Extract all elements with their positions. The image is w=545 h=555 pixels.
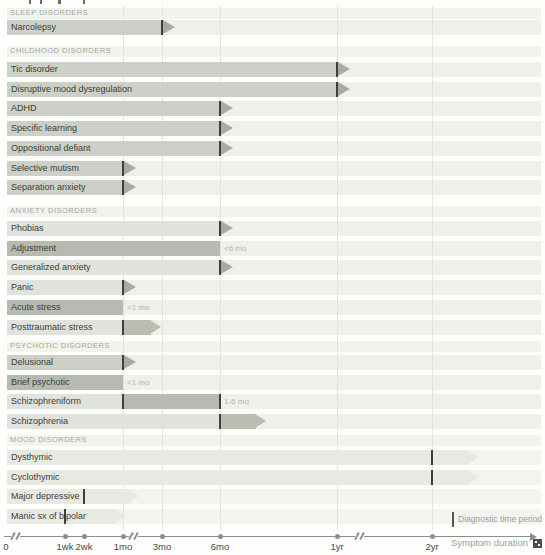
watermark-icon [533, 539, 542, 548]
axis-tick-label-1wk: 1wk [57, 541, 74, 552]
axis-tick-dot [218, 534, 223, 539]
axis-tick-label-2yr: 2yr [425, 541, 438, 552]
axis-tick-label-6mo: 6mo [211, 541, 229, 552]
diagnostic-period-marker-icon [452, 512, 454, 527]
symptom-duration-chart: SLEEP DISORDERSNarcolepsyCHILDHOOD DISOR… [0, 0, 545, 555]
axis-tick-label-2wk: 2wk [76, 541, 93, 552]
legend-diagnostic-time-period: Diagnostic time period [452, 511, 542, 527]
axis-title: Symptom duration [451, 537, 528, 548]
time-axis: 1wk2wk1mo3mo6mo1yr2yr0 [0, 0, 545, 555]
axis-tick-dot [82, 534, 87, 539]
axis-tick-dot [335, 534, 340, 539]
axis-tick-label-3mo: 3mo [153, 541, 171, 552]
axis-tick-dot [63, 534, 68, 539]
axis-tick-dot [160, 534, 165, 539]
legend-label: Diagnostic time period [458, 514, 542, 524]
axis-tick-label-1mo: 1mo [114, 541, 132, 552]
axis-tick-label-0: 0 [3, 541, 8, 552]
axis-tick-dot [430, 534, 435, 539]
axis-tick-label-1yr: 1yr [330, 541, 343, 552]
axis-tick-dot [121, 534, 126, 539]
